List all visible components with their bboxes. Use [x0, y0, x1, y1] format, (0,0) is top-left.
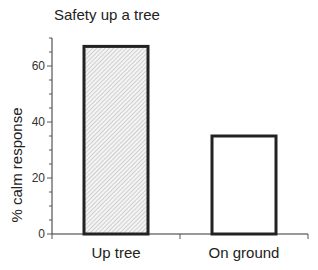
y-tick-label: 60	[32, 59, 46, 73]
bar-chart: Safety up a tree % calm response 0204060…	[0, 0, 318, 270]
y-tick-label: 0	[38, 227, 45, 241]
y-axis: 0204060	[32, 38, 52, 241]
y-tick-label: 20	[32, 171, 46, 185]
category-labels: Up treeOn ground	[91, 244, 279, 261]
category-label: Up tree	[91, 244, 140, 261]
bar-up-tree	[84, 46, 148, 234]
bar-on-ground	[212, 136, 276, 234]
y-axis-label: % calm response	[8, 107, 25, 222]
y-tick-label: 40	[32, 115, 46, 129]
category-label: On ground	[209, 244, 280, 261]
bars	[84, 46, 276, 234]
chart-title: Safety up a tree	[54, 6, 160, 23]
